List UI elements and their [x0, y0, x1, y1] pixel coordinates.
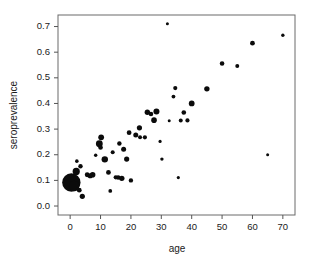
data-point — [73, 168, 80, 175]
y-tick-label: 0.5 — [37, 71, 50, 82]
data-point — [235, 64, 239, 68]
data-point — [75, 159, 79, 163]
data-point — [119, 176, 124, 181]
data-point — [281, 34, 284, 37]
data-point — [78, 164, 82, 168]
y-tick-label: 0.2 — [37, 148, 50, 159]
data-point — [153, 108, 159, 114]
data-point — [143, 135, 147, 139]
data-point — [94, 154, 97, 157]
data-point — [127, 130, 132, 135]
data-point — [90, 172, 96, 178]
data-point — [138, 135, 142, 139]
data-point — [177, 176, 180, 179]
data-point — [266, 153, 269, 156]
data-point — [204, 86, 209, 91]
data-point — [124, 157, 129, 162]
x-tick-label: 20 — [126, 221, 137, 232]
data-point — [137, 125, 142, 130]
x-axis: 010203040506070 — [68, 215, 289, 232]
data-point — [173, 86, 177, 90]
data-point — [158, 140, 161, 143]
data-point — [133, 133, 138, 138]
y-tick-label: 0.4 — [37, 97, 50, 108]
data-point — [111, 150, 115, 154]
plot-border — [58, 15, 295, 215]
x-tick-label: 10 — [95, 221, 106, 232]
y-tick-label: 0.7 — [37, 20, 50, 31]
data-point — [181, 110, 186, 115]
x-tick-label: 70 — [278, 221, 289, 232]
x-axis-title: age — [169, 243, 186, 254]
data-point — [166, 22, 169, 25]
data-point — [98, 145, 103, 150]
x-tick-label: 60 — [247, 221, 258, 232]
data-point — [172, 95, 176, 99]
data-point — [108, 189, 112, 193]
data-point — [77, 188, 82, 193]
data-point — [151, 117, 157, 123]
y-axis-title: seroprevalence — [8, 80, 19, 149]
y-tick-label: 0.6 — [37, 46, 50, 57]
y-tick-label: 0.3 — [37, 123, 50, 134]
data-point — [129, 178, 133, 182]
x-tick-label: 30 — [156, 221, 167, 232]
data-point — [189, 101, 195, 107]
data-point — [179, 118, 183, 122]
data-point — [250, 41, 255, 46]
data-point — [220, 61, 225, 66]
x-tick-label: 50 — [217, 221, 228, 232]
y-tick-label: 0.0 — [37, 200, 50, 211]
data-point — [121, 147, 126, 152]
data-points-layer — [62, 22, 284, 199]
data-point — [102, 156, 108, 162]
scatter-plot-figure: 0.00.10.20.30.40.50.60.7 010203040506070… — [0, 0, 309, 267]
data-point — [98, 134, 104, 140]
x-tick-label: 40 — [186, 221, 197, 232]
y-tick-label: 0.1 — [37, 174, 50, 185]
data-point — [185, 118, 189, 122]
y-axis: 0.00.10.20.30.40.50.60.7 — [37, 20, 58, 210]
plot-canvas: 0.00.10.20.30.40.50.60.7 010203040506070… — [0, 0, 309, 267]
data-point — [149, 112, 154, 117]
data-point — [117, 141, 121, 145]
data-point — [80, 194, 85, 199]
data-point — [106, 170, 111, 175]
plot-frame — [58, 15, 295, 215]
data-point — [160, 157, 163, 160]
x-tick-label: 0 — [68, 221, 73, 232]
data-point — [168, 119, 171, 122]
